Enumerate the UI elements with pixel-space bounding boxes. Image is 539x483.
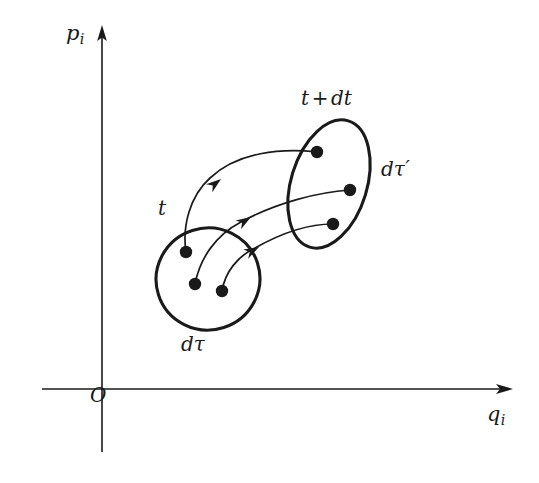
trajectories-group [185,151,350,291]
vertical-axis-label: pi [66,23,84,46]
trajectory-arrowhead [236,213,254,230]
trajectory-curve [195,190,350,284]
initial-volume-region [143,214,273,343]
axes-group [42,25,513,452]
trajectory-arrowhead [206,175,224,192]
diagram-canvas [0,0,539,483]
evolved-volume-outline [273,110,384,258]
evolved-volume-region [273,110,384,258]
evolved-time-label: t+dt [301,88,352,108]
horizontal-axis-label: qi [487,404,505,427]
evolved-volume-label: dτ′ [381,158,410,179]
trajectory-2 [195,190,350,284]
initial-volume-label: dτ [181,334,205,354]
origin-label: O [90,385,106,405]
initial-volume-outline [143,214,273,343]
phase-space-diagram: pi qi O t t+dt dτ dτ′ [0,0,539,483]
trajectory-curve [222,224,333,291]
trajectory-3 [222,224,333,291]
initial-time-label: t [158,198,166,218]
